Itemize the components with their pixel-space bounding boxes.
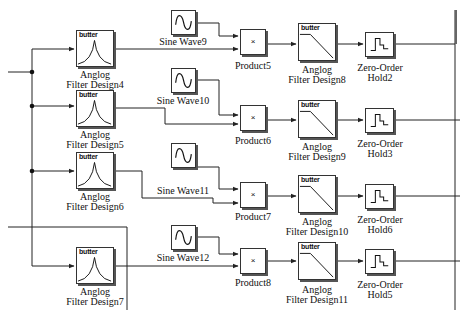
bandpass-response-icon xyxy=(77,31,113,66)
bandpass-filter-label-5: AnglogFilter Design5 xyxy=(55,130,135,150)
bandpass-filter-block-5[interactable]: butter xyxy=(76,90,114,127)
lowpass-response-icon xyxy=(299,176,335,212)
sine-wave-label-9: Sine Wave9 xyxy=(143,37,223,47)
zero-order-hold-label-5: Zero-OrderHold5 xyxy=(349,280,411,300)
product-label-7: Product7 xyxy=(223,212,283,222)
multiply-icon: × xyxy=(241,113,265,122)
bandpass-filter-block-4[interactable]: butter xyxy=(76,30,114,67)
lowpass-filter-block-10[interactable]: butter xyxy=(298,175,336,213)
product-block-6[interactable]: × xyxy=(240,105,266,131)
bandpass-filter-block-7[interactable]: butter xyxy=(76,247,114,284)
staircase-icon xyxy=(366,250,393,273)
zero-order-hold-block-3[interactable] xyxy=(365,108,394,133)
bandpass-filter-label-4: AnglogFilter Design4 xyxy=(55,70,135,90)
lowpass-response-icon xyxy=(299,243,335,279)
bandpass-response-icon xyxy=(77,91,113,126)
sine-wave-icon xyxy=(172,226,195,249)
lowpass-filter-label-11: AnglogFilter Design11 xyxy=(277,285,357,305)
staircase-icon xyxy=(366,109,393,132)
lowpass-filter-label-9: AnglogFilter Design9 xyxy=(277,142,357,162)
product-label-8: Product8 xyxy=(223,278,283,288)
zero-order-hold-block-5[interactable] xyxy=(365,249,394,274)
zero-order-hold-block-6[interactable] xyxy=(365,184,394,209)
sine-wave-block-12[interactable] xyxy=(171,225,196,250)
junction-dot xyxy=(30,70,35,75)
lowpass-response-icon xyxy=(299,101,335,137)
sine-wave-block-10[interactable] xyxy=(171,68,196,93)
product-block-7[interactable]: × xyxy=(240,182,266,208)
lowpass-filter-block-9[interactable]: butter xyxy=(298,100,336,138)
junction-dot xyxy=(30,104,35,109)
zero-order-hold-label-6: Zero-OrderHold6 xyxy=(349,215,411,235)
lowpass-filter-block-11[interactable]: butter xyxy=(298,242,336,280)
lowpass-filter-block-8[interactable]: butter xyxy=(298,23,336,61)
sine-wave-icon xyxy=(172,144,195,167)
bandpass-filter-label-6: AnglogFilter Design6 xyxy=(55,192,135,212)
zero-order-hold-block-2[interactable] xyxy=(365,32,394,57)
lowpass-filter-label-10: AnglogFilter Design10 xyxy=(277,217,357,237)
signal-lines xyxy=(0,0,469,319)
zero-order-hold-label-3: Zero-OrderHold3 xyxy=(349,139,411,159)
sine-wave-label-12: Sine Wave12 xyxy=(143,253,223,263)
staircase-icon xyxy=(366,185,393,208)
junction-dot xyxy=(30,169,35,174)
bandpass-filter-block-6[interactable]: butter xyxy=(76,152,114,189)
multiply-icon: × xyxy=(241,190,265,199)
sine-wave-icon xyxy=(172,11,195,34)
multiply-icon: × xyxy=(241,256,265,265)
bandpass-response-icon xyxy=(77,248,113,283)
sine-wave-block-11[interactable] xyxy=(171,143,196,168)
sine-wave-label-10: Sine Wave10 xyxy=(143,96,223,106)
sine-wave-icon xyxy=(172,69,195,92)
product-block-5[interactable]: × xyxy=(240,29,266,55)
bandpass-filter-label-7: AnglogFilter Design7 xyxy=(55,287,135,307)
product-label-6: Product6 xyxy=(223,136,283,146)
diagram-canvas: butter AnglogFilter Design4 butter Anglo… xyxy=(0,0,469,319)
multiply-icon: × xyxy=(241,37,265,46)
bandpass-response-icon xyxy=(77,153,113,188)
lowpass-filter-label-8: AnglogFilter Design8 xyxy=(277,65,357,85)
product-block-8[interactable]: × xyxy=(240,248,266,274)
staircase-icon xyxy=(366,33,393,56)
sine-wave-label-11: Sine Wave11 xyxy=(143,186,223,196)
sine-wave-block-9[interactable] xyxy=(171,10,196,35)
product-label-5: Product5 xyxy=(223,61,283,71)
zero-order-hold-label-2: Zero-OrderHold2 xyxy=(349,63,411,83)
lowpass-response-icon xyxy=(299,24,335,60)
